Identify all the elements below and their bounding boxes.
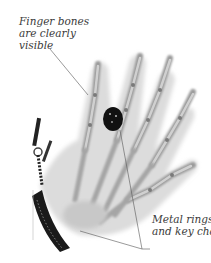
label-line: Metal rings	[152, 213, 211, 225]
xray-figure: Finger bones are clearly visible Metal r…	[0, 0, 211, 263]
label-line: Finger bones	[19, 15, 89, 27]
metal-rings-label: Metal rings and key chain	[152, 213, 211, 237]
wrist-bones	[63, 201, 107, 229]
finger-bones-label: Finger bones are clearly visible	[19, 15, 89, 51]
metal-ring	[103, 107, 123, 131]
label-line: and key chain	[152, 225, 211, 237]
label-line: visible	[19, 39, 89, 51]
label-line: are clearly	[19, 27, 89, 39]
leader-fingers	[50, 49, 88, 95]
